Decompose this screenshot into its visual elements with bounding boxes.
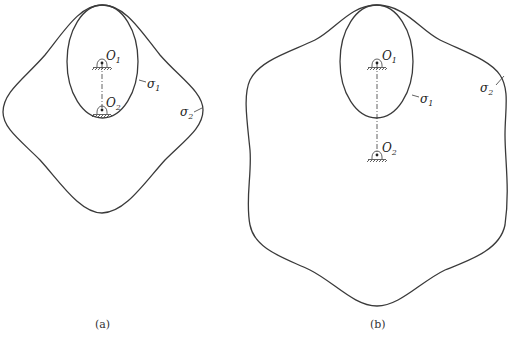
label-o2-b: O2 <box>382 141 397 157</box>
label-o2-a: O2 <box>106 96 121 112</box>
caption-b: (b) <box>370 318 386 331</box>
curve-sigma2-a <box>3 5 203 213</box>
label-sigma1-a: σ1 <box>147 77 160 93</box>
label-sigma1-b: σ1 <box>420 92 433 108</box>
figure: O1 O2 σ1 σ2 (a) O1 O2 σ1 σ2 (b) <box>0 0 512 338</box>
panel-a: O1 O2 σ1 σ2 (a) <box>3 5 203 331</box>
curve-sigma1-b <box>340 5 413 118</box>
panel-b: O1 O2 σ1 σ2 (b) <box>246 5 507 331</box>
label-sigma2-a: σ2 <box>180 105 193 121</box>
label-sigma2-b: σ2 <box>480 81 493 97</box>
caption-a: (a) <box>95 318 110 331</box>
label-o1-a: O1 <box>106 49 121 65</box>
label-o1-b: O1 <box>382 49 397 65</box>
curve-sigma1-a <box>67 5 138 118</box>
